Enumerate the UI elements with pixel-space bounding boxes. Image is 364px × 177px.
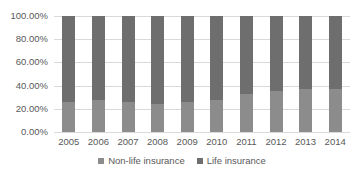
bar-segment-life: [151, 16, 164, 104]
bar-segment-life: [210, 16, 223, 100]
bar-segment-non-life: [329, 89, 342, 132]
bar-2006: [92, 16, 105, 132]
bar-2005: [62, 16, 75, 132]
legend-item-non-life: Non-life insurance: [98, 155, 185, 166]
legend-label: Non-life insurance: [108, 155, 185, 166]
legend-item-life: Life insurance: [197, 155, 266, 166]
bar-2007: [122, 16, 135, 132]
x-tick-label: 2008: [143, 136, 173, 147]
legend-swatch-life-icon: [197, 158, 203, 164]
bar-segment-non-life: [299, 89, 312, 132]
bar-segment-non-life: [62, 102, 75, 132]
bar-2009: [181, 16, 194, 132]
x-tick-label: 2010: [202, 136, 232, 147]
legend: Non-life insurance Life insurance: [0, 155, 364, 166]
y-tick-label: 40.00%: [16, 81, 48, 91]
x-tick-label: 2005: [54, 136, 84, 147]
bar-segment-non-life: [151, 104, 164, 132]
y-tick-label: 80.00%: [16, 34, 48, 44]
bar-segment-life: [181, 16, 194, 102]
y-tick-label: 100.00%: [10, 11, 48, 21]
bar-segment-non-life: [181, 102, 194, 132]
bar-2013: [299, 16, 312, 132]
bar-segment-life: [270, 16, 283, 91]
bar-segment-non-life: [122, 102, 135, 132]
bar-2014: [329, 16, 342, 132]
bar-segment-non-life: [210, 100, 223, 132]
x-tick-label: 2012: [261, 136, 291, 147]
bar-2011: [240, 16, 253, 132]
y-tick-label: 20.00%: [16, 104, 48, 114]
bar-segment-non-life: [270, 91, 283, 132]
y-tick-label: 60.00%: [16, 57, 48, 67]
bar-2012: [270, 16, 283, 132]
gridline: [54, 132, 350, 133]
x-tick-label: 2009: [172, 136, 202, 147]
bar-segment-life: [299, 16, 312, 89]
y-tick-label: 0.00%: [21, 127, 48, 137]
x-tick-label: 2014: [320, 136, 350, 147]
bar-segment-life: [92, 16, 105, 100]
bar-segment-life: [122, 16, 135, 102]
x-tick-label: 2007: [113, 136, 143, 147]
x-tick-label: 2013: [291, 136, 321, 147]
bar-2010: [210, 16, 223, 132]
bar-segment-non-life: [240, 94, 253, 132]
x-tick-label: 2006: [83, 136, 113, 147]
bar-segment-non-life: [92, 100, 105, 132]
bar-segment-life: [329, 16, 342, 89]
bar-segment-life: [240, 16, 253, 94]
legend-label: Life insurance: [207, 155, 266, 166]
bar-2008: [151, 16, 164, 132]
stacked-bar-chart: 0.00%20.00%40.00%60.00%80.00%100.00% 200…: [0, 0, 364, 177]
x-tick-label: 2011: [231, 136, 261, 147]
bar-segment-life: [62, 16, 75, 102]
legend-swatch-non-life-icon: [98, 158, 104, 164]
